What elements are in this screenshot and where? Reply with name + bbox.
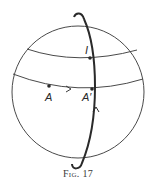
sphere-diagram: I A A′ Fig. 17 — [0, 0, 156, 183]
point-I-dot — [88, 56, 92, 60]
sphere-drawing — [0, 0, 156, 183]
point-A-dot — [47, 84, 51, 88]
sphere-outline — [12, 26, 144, 158]
point-I-label: I — [85, 45, 88, 56]
upper-latitude-curve — [27, 49, 137, 58]
figure-caption: Fig. 17 — [0, 168, 156, 179]
middle-latitude-curve — [13, 74, 143, 88]
point-A-label: A — [45, 92, 52, 103]
point-A-prime-label: A′ — [82, 92, 91, 103]
